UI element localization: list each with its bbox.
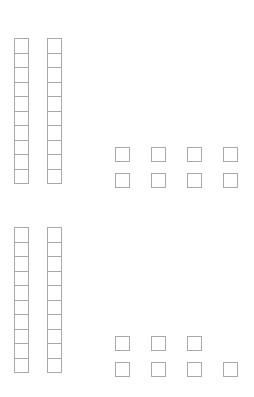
rod-cell xyxy=(47,96,62,112)
rod-stack-top xyxy=(14,38,62,183)
rod-cell xyxy=(14,329,29,345)
unit-square[interactable] xyxy=(187,336,202,351)
rod-cell xyxy=(47,242,62,258)
unit-square[interactable] xyxy=(187,147,202,162)
rod-cell xyxy=(14,53,29,69)
rod-cell xyxy=(14,242,29,258)
block-group-bottom[interactable] xyxy=(0,189,254,397)
rod-cell xyxy=(47,125,62,141)
rod-cell xyxy=(47,67,62,83)
rod-cell xyxy=(14,96,29,112)
rod-cell xyxy=(14,154,29,170)
rod-cell xyxy=(47,300,62,316)
rod[interactable] xyxy=(47,38,62,183)
rod-cell xyxy=(47,38,62,54)
rod-cell xyxy=(47,256,62,272)
unit-square[interactable] xyxy=(223,362,238,377)
unit-row xyxy=(115,173,238,188)
rod-cell xyxy=(47,329,62,345)
block-group-top[interactable] xyxy=(0,0,254,200)
rod-cell xyxy=(47,358,62,374)
rod-cell xyxy=(47,82,62,98)
unit-grid-bottom xyxy=(115,336,238,377)
unit-grid-top xyxy=(115,147,238,188)
unit-square[interactable] xyxy=(115,336,130,351)
rod-stack-bottom xyxy=(14,227,62,372)
unit-square[interactable] xyxy=(223,147,238,162)
rod-cell xyxy=(47,227,62,243)
rod-cell xyxy=(47,140,62,156)
rod-cell xyxy=(14,285,29,301)
blocks-canvas xyxy=(0,0,254,397)
rod-cell xyxy=(14,111,29,127)
rod-cell xyxy=(14,256,29,272)
rod-cell xyxy=(14,82,29,98)
rod-cell xyxy=(14,227,29,243)
unit-square[interactable] xyxy=(115,173,130,188)
rod-cell xyxy=(14,38,29,54)
rod[interactable] xyxy=(14,227,29,372)
rod-cell xyxy=(47,53,62,69)
unit-square[interactable] xyxy=(115,362,130,377)
rod-cell xyxy=(14,169,29,185)
rod-cell xyxy=(47,343,62,359)
rod-cell xyxy=(47,285,62,301)
rod-cell xyxy=(14,358,29,374)
rod-cell xyxy=(47,314,62,330)
unit-row xyxy=(115,362,238,377)
rod-cell xyxy=(14,140,29,156)
unit-square[interactable] xyxy=(151,362,166,377)
unit-row xyxy=(115,147,238,162)
rod-cell xyxy=(47,271,62,287)
rod-cell xyxy=(14,314,29,330)
rod-cell xyxy=(14,300,29,316)
unit-row xyxy=(115,336,238,351)
rod-cell xyxy=(47,111,62,127)
unit-square[interactable] xyxy=(115,147,130,162)
unit-square[interactable] xyxy=(223,173,238,188)
rod-cell xyxy=(14,125,29,141)
unit-square[interactable] xyxy=(151,147,166,162)
rod-cell xyxy=(14,67,29,83)
rod-cell xyxy=(47,169,62,185)
rod[interactable] xyxy=(47,227,62,372)
rod-cell xyxy=(14,343,29,359)
unit-square[interactable] xyxy=(151,173,166,188)
unit-square[interactable] xyxy=(151,336,166,351)
unit-square[interactable] xyxy=(187,362,202,377)
unit-square[interactable] xyxy=(187,173,202,188)
rod-cell xyxy=(14,271,29,287)
rod[interactable] xyxy=(14,38,29,183)
rod-cell xyxy=(47,154,62,170)
